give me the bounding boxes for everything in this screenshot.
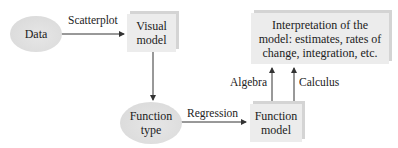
data-node: Data (10, 16, 62, 52)
function-type-line2: type (141, 123, 162, 137)
function-model-node: Function model (250, 104, 302, 142)
data-label: Data (25, 27, 48, 41)
visual-model-line2: model (137, 33, 167, 47)
function-model-line1: Function (255, 109, 298, 123)
function-type-node: Function type (120, 102, 182, 144)
visual-model-node: Visual model (127, 14, 176, 52)
interpretation-node: Interpretation of the model: estimates, … (251, 13, 389, 64)
function-type-line1: Function (130, 109, 173, 123)
algebra-label: Algebra (230, 76, 267, 88)
visual-model-line1: Visual (136, 19, 167, 33)
function-model-line2: model (261, 123, 291, 137)
calculus-label: Calculus (299, 76, 339, 88)
scatterplot-label: Scatterplot (68, 14, 118, 26)
interpretation-line2: model: estimates, rates of (259, 32, 382, 46)
regression-label: Regression (187, 107, 238, 119)
interpretation-line3: change, integration, etc. (263, 46, 378, 60)
interpretation-line1: Interpretation of the (272, 18, 368, 32)
